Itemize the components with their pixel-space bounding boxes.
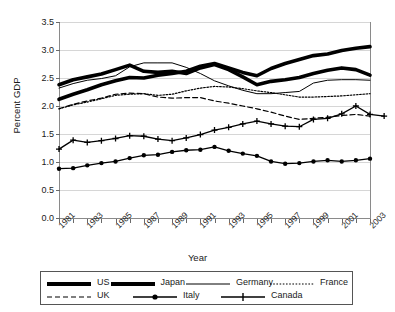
legend-sample-marker-plus bbox=[220, 289, 266, 301]
series-line bbox=[59, 63, 370, 94]
y-tick-text: 3.5 bbox=[28, 18, 54, 27]
legend-sample-marker-dot bbox=[132, 289, 178, 301]
y-tick-label: 3.0 bbox=[24, 46, 54, 55]
legend-sample-dotted bbox=[269, 276, 315, 288]
legend-label: France bbox=[320, 277, 348, 287]
data-point-marker bbox=[226, 149, 230, 153]
data-point-marker bbox=[226, 124, 232, 130]
series-italy bbox=[57, 145, 372, 171]
data-point-marker bbox=[71, 166, 75, 170]
y-tick-text: 0.0 bbox=[28, 214, 54, 223]
legend-item-japan[interactable]: Japan bbox=[110, 275, 186, 288]
series-line bbox=[59, 106, 384, 149]
data-point-marker bbox=[310, 116, 316, 122]
legend-item-france[interactable]: France bbox=[269, 275, 348, 288]
line-chart: 3.53.02.52.01.51.00.50.0 Percent GDP 198… bbox=[0, 0, 395, 268]
series-line bbox=[59, 93, 370, 119]
data-point-marker bbox=[142, 153, 146, 157]
data-point-marker bbox=[113, 135, 119, 141]
data-point-marker bbox=[127, 156, 131, 160]
y-tick-text: 1.5 bbox=[28, 130, 54, 139]
legend-row: UKItalyCanada bbox=[46, 288, 347, 301]
legend-label: UK bbox=[97, 290, 110, 300]
chart-root: 3.53.02.52.01.51.00.50.0 Percent GDP 198… bbox=[0, 0, 395, 312]
data-point-marker bbox=[241, 151, 245, 155]
data-point-marker bbox=[340, 159, 344, 163]
data-point-marker bbox=[368, 156, 372, 160]
legend-item-us[interactable]: US bbox=[46, 275, 110, 288]
y-tick-label: 0.0 bbox=[24, 214, 54, 223]
data-point-marker bbox=[240, 121, 246, 127]
data-point-marker bbox=[297, 161, 301, 165]
legend-sample-thin-solid bbox=[185, 276, 231, 288]
data-point-marker bbox=[98, 138, 104, 144]
legend-sample-thick-solid bbox=[110, 276, 156, 288]
data-point-marker bbox=[254, 118, 260, 124]
series-line bbox=[59, 147, 370, 169]
y-tick-label: 0.5 bbox=[24, 186, 54, 195]
y-tick-label: 1.5 bbox=[24, 130, 54, 139]
data-point-marker bbox=[197, 132, 203, 138]
x-axis-label: Year bbox=[0, 252, 395, 263]
y-tick-text: 0.5 bbox=[28, 186, 54, 195]
legend-item-canada[interactable]: Canada bbox=[220, 288, 304, 301]
legend-label: Germany bbox=[236, 277, 273, 287]
y-tick-text: 3.0 bbox=[28, 46, 54, 55]
data-point-marker bbox=[325, 158, 329, 162]
data-point-marker bbox=[212, 145, 216, 149]
y-tick-label: 3.5 bbox=[24, 18, 54, 27]
series-germany bbox=[59, 63, 370, 94]
chart-legend: USJapanGermanyFrance UKItalyCanada bbox=[40, 271, 353, 305]
y-tick-label: 2.5 bbox=[24, 74, 54, 83]
legend-label: Italy bbox=[183, 290, 200, 300]
y-axis-label: Percent GDP bbox=[11, 66, 22, 146]
data-point-marker bbox=[99, 161, 103, 165]
series-uk bbox=[59, 93, 370, 119]
data-point-marker bbox=[127, 133, 133, 139]
plot-right-border bbox=[370, 22, 371, 218]
data-point-marker bbox=[283, 161, 287, 165]
data-point-marker bbox=[84, 139, 90, 145]
data-point-marker bbox=[212, 127, 218, 133]
legend-label: Canada bbox=[271, 290, 303, 300]
y-tick-label: 1.0 bbox=[24, 158, 54, 167]
data-point-marker bbox=[367, 111, 373, 117]
data-series-layer bbox=[59, 22, 370, 218]
y-tick-text: 2.0 bbox=[28, 102, 54, 111]
legend-item-italy[interactable]: Italy bbox=[132, 288, 220, 301]
series-canada bbox=[56, 103, 387, 152]
data-point-marker bbox=[170, 150, 174, 154]
data-point-marker bbox=[183, 135, 189, 141]
y-tick-text: 1.0 bbox=[28, 158, 54, 167]
data-point-marker bbox=[156, 153, 160, 157]
data-point-marker bbox=[113, 159, 117, 163]
data-point-marker bbox=[282, 123, 288, 129]
legend-label: US bbox=[97, 277, 110, 287]
y-tick-label: 2.0 bbox=[24, 102, 54, 111]
data-point-marker bbox=[85, 163, 89, 167]
data-point-marker bbox=[169, 138, 175, 144]
data-point-marker bbox=[311, 159, 315, 163]
legend-label: Japan bbox=[161, 277, 186, 287]
data-point-marker bbox=[255, 154, 259, 158]
data-point-marker bbox=[296, 124, 302, 130]
legend-sample-thick-solid bbox=[46, 276, 92, 288]
data-point-marker bbox=[268, 121, 274, 127]
data-point-marker bbox=[184, 148, 188, 152]
legend-sample-dashed bbox=[46, 289, 92, 301]
data-point-marker bbox=[155, 136, 161, 142]
legend-item-uk[interactable]: UK bbox=[46, 288, 132, 301]
data-point-marker bbox=[269, 159, 273, 163]
legend-row: USJapanGermanyFrance bbox=[46, 275, 347, 288]
legend-item-germany[interactable]: Germany bbox=[185, 275, 269, 288]
data-point-marker bbox=[381, 113, 387, 119]
y-tick-text: 2.5 bbox=[28, 74, 54, 83]
data-point-marker bbox=[353, 103, 359, 109]
data-point-marker bbox=[325, 115, 331, 121]
data-point-marker bbox=[141, 133, 147, 139]
data-point-marker bbox=[57, 167, 61, 171]
data-point-marker bbox=[198, 147, 202, 151]
data-point-marker bbox=[354, 158, 358, 162]
